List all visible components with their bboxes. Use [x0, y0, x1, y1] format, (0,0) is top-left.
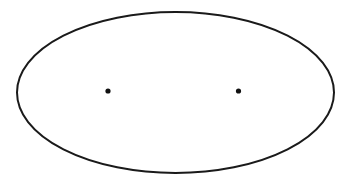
ellipse-outline: [17, 12, 334, 173]
focus-point-right: [236, 88, 241, 93]
focus-point-left: [105, 88, 110, 93]
ellipse-diagram: [0, 0, 354, 184]
